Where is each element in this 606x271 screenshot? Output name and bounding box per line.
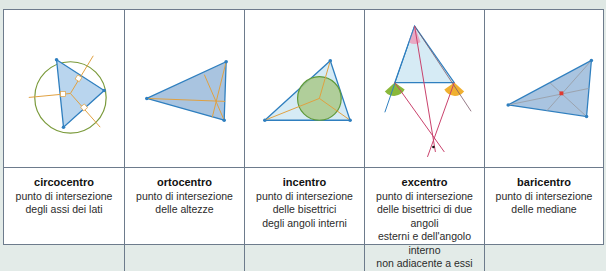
caption-line: degli assi dei lati: [4, 203, 124, 217]
caption-circocentro: circocentro punto di intersezione degli …: [4, 168, 125, 271]
caption-ortocentro: ortocentro punto di intersezione delle a…: [125, 168, 245, 271]
orthocenter-diagram-icon: [125, 10, 244, 167]
figure-cell-ortocentro: [125, 10, 245, 168]
external-angle-mark: [444, 83, 464, 96]
triangle-centers-table: circocentro punto di intersezione degli …: [3, 9, 604, 245]
caption-line: punto di intersezione: [125, 190, 244, 204]
centroid-point: [559, 91, 563, 95]
vertex: [224, 60, 228, 64]
figure-cell-excentro: [365, 10, 485, 168]
caption-title: incentro: [245, 176, 364, 190]
excenter-point: [432, 146, 435, 149]
caption-line: delle bisettrici: [245, 203, 364, 217]
caption-line: non adiacente a essi: [365, 257, 484, 271]
caption-line: esterni e dell'angolo interno: [365, 230, 484, 257]
figure-cell-circocentro: [4, 10, 125, 168]
caption-title: baricentro: [485, 176, 603, 190]
vertex: [328, 59, 332, 63]
caption-incentro: incentro punto di intersezione delle bis…: [245, 168, 365, 271]
triangle: [395, 26, 455, 83]
vertex: [102, 89, 106, 93]
vertex: [55, 58, 59, 62]
figure-cell-incentro: [245, 10, 365, 168]
caption-title: ortocentro: [125, 176, 244, 190]
external-bisector: [395, 83, 445, 152]
caption-baricentro: baricentro punto di intersezione delle m…: [485, 168, 603, 271]
caption-title: circocentro: [4, 176, 124, 190]
caption-line: punto di intersezione: [4, 190, 124, 204]
circumcenter-diagram-icon: [4, 10, 124, 167]
vertex: [585, 115, 588, 118]
vertex: [222, 118, 226, 122]
caption-title: excentro: [365, 176, 484, 190]
incenter-diagram-icon: [245, 10, 364, 167]
vertex: [348, 118, 352, 122]
vertex: [62, 125, 66, 129]
caption-excentro: excentro punto di intersezione delle bis…: [365, 168, 485, 271]
caption-line: punto di intersezione: [245, 190, 364, 204]
caption-line: delle bisettrici di due angoli: [365, 203, 484, 230]
external-bisector: [427, 83, 454, 157]
centroid-diagram-icon: [485, 10, 603, 167]
vertex: [506, 103, 509, 106]
caption-line: punto di intersezione: [485, 190, 603, 204]
caption-line: delle mediane: [485, 203, 603, 217]
vertex: [590, 59, 593, 62]
caption-line: punto di intersezione: [365, 190, 484, 204]
top-strip: [0, 0, 606, 9]
triangle: [147, 62, 226, 121]
right-angle-mark: [61, 91, 66, 96]
figure-cell-baricentro: [485, 10, 603, 168]
excenter-diagram-icon: [365, 10, 484, 167]
vertex: [145, 97, 149, 101]
vertex: [263, 118, 267, 122]
caption-line: delle altezze: [125, 203, 244, 217]
caption-line: degli angoli interni: [245, 217, 364, 231]
